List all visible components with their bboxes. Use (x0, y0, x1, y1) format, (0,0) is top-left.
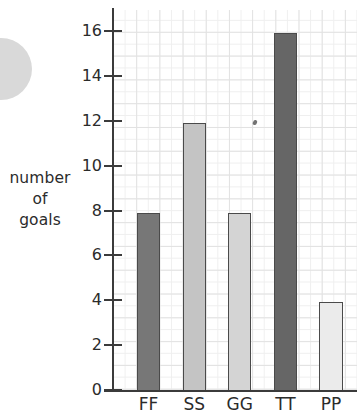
x-axis-label-FF: FF (129, 394, 169, 414)
chart-canvas: number of goals 0246810121416 FFSSGGTTPP (0, 0, 357, 416)
y-tick-label-0: 0 (72, 382, 102, 398)
decorative-circle (0, 38, 32, 100)
y-tick-label-2: 2 (72, 337, 102, 353)
y-axis-title-line-1: number (0, 168, 80, 189)
x-axis-label-GG: GG (220, 394, 260, 414)
y-tick-14 (104, 75, 122, 77)
x-axis-label-PP: PP (311, 394, 351, 414)
y-axis-title: number of goals (0, 168, 80, 231)
y-tick-16 (104, 30, 122, 32)
y-axis-title-line-2: of (0, 189, 80, 210)
y-tick-label-14: 14 (72, 68, 102, 84)
y-tick-label-wrap: 12 (72, 113, 102, 129)
y-tick-label-12: 12 (72, 113, 102, 129)
y-axis-line (112, 8, 114, 392)
bar-TT (274, 33, 297, 392)
y-tick-10 (104, 165, 122, 167)
y-tick-4 (104, 299, 122, 301)
x-axis-line (104, 390, 357, 392)
y-tick-label-6: 6 (72, 247, 102, 263)
y-tick-label-16: 16 (72, 23, 102, 39)
y-tick-label-10: 10 (72, 158, 102, 174)
y-tick-label-wrap: 4 (72, 292, 102, 308)
plot-area (113, 10, 357, 391)
y-tick-6 (104, 254, 122, 256)
y-tick-label-wrap: 6 (72, 247, 102, 263)
x-axis-label-SS: SS (174, 394, 214, 414)
bar-PP (319, 302, 342, 392)
y-tick-label-wrap: 2 (72, 337, 102, 353)
x-axis-label-TT: TT (265, 394, 305, 414)
bar-GG (228, 213, 251, 393)
y-tick-label-wrap: 10 (72, 158, 102, 174)
y-axis-title-line-3: goals (0, 210, 80, 231)
y-tick-8 (104, 210, 122, 212)
y-tick-12 (104, 120, 122, 122)
bar-SS (183, 123, 206, 392)
y-tick-label-8: 8 (72, 203, 102, 219)
y-tick-label-wrap: 0 (72, 382, 102, 398)
y-tick-label-4: 4 (72, 292, 102, 308)
y-tick-2 (104, 344, 122, 346)
bar-FF (137, 213, 160, 393)
y-tick-label-wrap: 16 (72, 23, 102, 39)
y-tick-label-wrap: 14 (72, 68, 102, 84)
y-tick-0 (104, 389, 122, 391)
y-tick-label-wrap: 8 (72, 203, 102, 219)
